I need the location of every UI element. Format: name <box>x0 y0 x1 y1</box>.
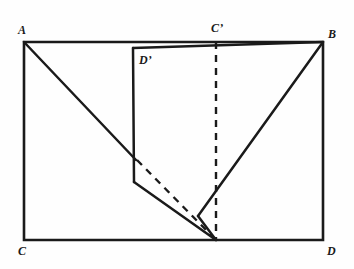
vertex-label-c-prime: C’ <box>211 22 223 34</box>
vertex-label-d: D <box>327 245 336 257</box>
flap-left-edge <box>133 48 134 182</box>
vertex-label-b: B <box>328 28 336 40</box>
flap-bottom-edge <box>134 182 216 240</box>
dashed-crease-line <box>137 160 216 240</box>
vertex-label-c: C <box>18 245 26 257</box>
vertex-label-d-prime: D’ <box>139 54 152 66</box>
vertex-label-a: A <box>18 24 26 36</box>
geometry-figure: A B C D C’ D’ <box>0 0 354 269</box>
diagonal-from-a <box>24 42 136 160</box>
figure-canvas <box>0 0 354 269</box>
